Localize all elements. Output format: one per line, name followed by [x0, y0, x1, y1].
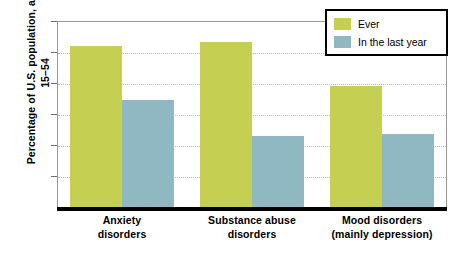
bar — [252, 136, 304, 207]
bar-group — [200, 21, 304, 207]
category-label-line: (mainly depression) — [307, 227, 457, 241]
category-label-line: Mood disorders — [307, 213, 457, 227]
category-label-line: disorders — [177, 227, 327, 241]
bar — [70, 46, 122, 207]
x-axis-category-labels: AnxietydisordersSubstance abusedisorders… — [57, 213, 447, 253]
legend-label: Ever — [358, 18, 380, 30]
bar — [200, 42, 252, 207]
category-label-line: Substance abuse — [177, 213, 327, 227]
bar-group — [70, 21, 174, 207]
bar — [122, 100, 174, 207]
bar-chart-figure: Percentage of U.S. population, ages 15–5… — [0, 0, 458, 255]
x-axis-baseline — [57, 207, 447, 211]
legend-label: In the last year — [358, 36, 427, 48]
y-axis-title: Percentage of U.S. population, ages 15–5… — [21, 0, 55, 168]
legend-item: Ever — [334, 16, 440, 31]
y-axis-title-text: Percentage of U.S. population, ages 15–5… — [24, 0, 52, 168]
chart-legend: EverIn the last year — [325, 9, 448, 56]
legend-item: In the last year — [334, 34, 440, 49]
x-axis-category-label: Substance abusedisorders — [177, 213, 327, 241]
bar — [382, 134, 434, 207]
category-label-line: Anxiety — [47, 213, 197, 227]
legend-swatch — [334, 18, 351, 30]
x-axis-category-label: Mood disorders(mainly depression) — [307, 213, 457, 241]
legend-swatch — [334, 36, 351, 48]
category-label-line: disorders — [47, 227, 197, 241]
bar — [330, 86, 382, 207]
x-axis-category-label: Anxietydisorders — [47, 213, 197, 241]
